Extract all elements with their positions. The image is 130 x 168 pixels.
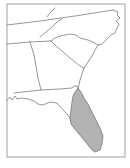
tennessee-north-carolina-border bbox=[40, 19, 62, 37]
virginia-north-carolina-border bbox=[7, 10, 113, 25]
georgia-florida-border bbox=[14, 86, 78, 93]
georgia-coast bbox=[78, 68, 84, 88]
alabama-georgia-border bbox=[30, 42, 41, 90]
kentucky-tennessee-upper-border bbox=[47, 8, 55, 17]
georgia-south-carolina-border bbox=[51, 41, 84, 68]
north-carolina-coast bbox=[98, 10, 120, 45]
southeast-us-map bbox=[0, 0, 130, 168]
florida-panhandle-coast bbox=[7, 96, 71, 120]
tennessee-georgia-border bbox=[7, 41, 51, 44]
map-frame bbox=[7, 4, 125, 157]
north-carolina-south-carolina-border bbox=[51, 34, 98, 45]
south-carolina-coast bbox=[84, 45, 98, 68]
florida-peninsula-highlight bbox=[70, 88, 103, 152]
